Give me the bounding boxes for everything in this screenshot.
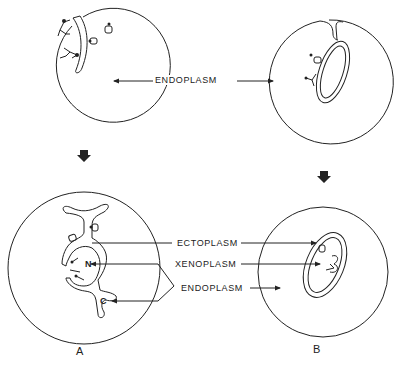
invagination-band (73, 16, 87, 73)
vacuole-inner (315, 43, 351, 101)
panel-label-b: B (313, 343, 320, 355)
label-ectoplasm: ECTOPLASM (176, 238, 239, 248)
cell-top-left (56, 8, 170, 122)
organelle-icon (314, 57, 321, 63)
cell-membrane-bottom-right (258, 207, 388, 337)
transition-arrow-a (77, 150, 91, 162)
panel-label-a: A (76, 345, 83, 357)
cell-bottom-right (258, 207, 388, 337)
down-arrow-icon (77, 150, 91, 162)
label-endoplasm-top: ENDOPLASM (154, 75, 218, 85)
organelle-icon (105, 26, 112, 33)
xenosome-outer (295, 226, 356, 303)
vacuole-outer (310, 37, 356, 107)
label-endoplasm-bottom: ENDOPLASM (180, 283, 244, 293)
label-c-marker: C (100, 296, 107, 306)
cell-membrane-top-right (269, 20, 393, 144)
transition-arrow-b (317, 171, 331, 183)
cell-bottom-left (8, 192, 160, 344)
cell-membrane-bottom-left (8, 192, 160, 344)
label-nucleus: N (85, 259, 92, 269)
cell-top-right (269, 20, 393, 144)
organelle-icon (68, 234, 77, 242)
cell-membrane-top-left (56, 8, 170, 122)
diagram-canvas (0, 0, 401, 365)
down-arrow-icon (317, 171, 331, 183)
label-xenoplasm: XENOPLASM (174, 259, 237, 269)
organelle-icon (92, 224, 98, 231)
